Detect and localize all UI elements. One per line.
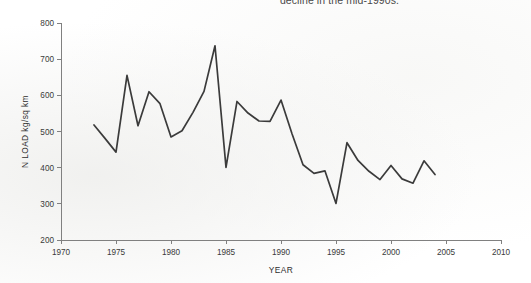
x-tick-label: 1970	[52, 248, 71, 257]
y-axis-title: N LOAD kg/sq km	[20, 95, 30, 168]
y-tick-label: 300	[40, 200, 54, 209]
x-tick-label: 1995	[327, 248, 346, 257]
x-tick-label: 1985	[217, 248, 236, 257]
data-series-group	[94, 46, 435, 204]
y-tick-label: 800	[40, 19, 54, 28]
y-tick-label: 700	[40, 55, 54, 64]
y-axis: 200300400500600700800 N LOAD kg/sq km	[20, 19, 61, 245]
x-axis: 197019751980198519901995200020052010 YEA…	[52, 240, 511, 275]
x-axis-title: YEAR	[269, 265, 293, 275]
x-tick-label: 1990	[272, 248, 291, 257]
y-tick-label: 200	[40, 236, 54, 245]
y-tick-label: 400	[40, 164, 54, 173]
x-tick-label: 1980	[162, 248, 181, 257]
x-axis-ticks: 197019751980198519901995200020052010	[52, 240, 511, 257]
y-tick-label: 600	[40, 91, 54, 100]
chart-svg: 200300400500600700800 N LOAD kg/sq km 19…	[0, 0, 531, 283]
y-tick-label: 500	[40, 128, 54, 137]
x-tick-label: 2000	[382, 248, 401, 257]
y-axis-ticks: 200300400500600700800	[40, 19, 61, 245]
x-tick-label: 2005	[437, 248, 456, 257]
x-tick-label: 1975	[107, 248, 126, 257]
line-chart: 200300400500600700800 N LOAD kg/sq km 19…	[0, 0, 531, 283]
data-series-line	[94, 46, 435, 204]
x-tick-label: 2010	[492, 248, 511, 257]
